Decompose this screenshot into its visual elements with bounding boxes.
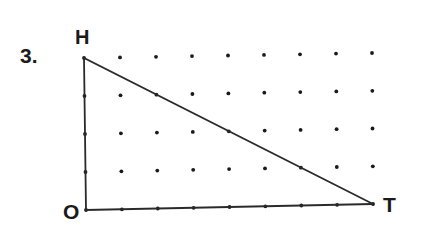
grid-dot	[120, 169, 124, 173]
grid-dot	[371, 164, 375, 168]
grid-dot	[335, 127, 339, 131]
grid-dot	[155, 169, 159, 173]
grid-dot	[370, 51, 374, 55]
grid-dot	[191, 168, 195, 172]
grid-dot	[262, 53, 266, 57]
grid-dot	[370, 89, 374, 93]
grid-dot	[262, 91, 266, 95]
grid-dot	[155, 131, 159, 135]
grid-dot	[227, 92, 231, 96]
grid-dot	[226, 54, 230, 58]
grid-dot	[119, 93, 123, 97]
dot-grid-triangle-diagram	[0, 0, 421, 238]
grid-dot	[263, 167, 267, 171]
grid-dot	[119, 131, 123, 135]
grid-dot	[118, 56, 122, 60]
grid-dot	[298, 52, 302, 56]
grid-dot	[190, 54, 194, 58]
grid-dot	[335, 165, 339, 169]
grid-dot	[371, 127, 375, 131]
grid-dot	[191, 92, 195, 96]
grid-dot	[154, 55, 158, 59]
triangle-hot	[84, 58, 373, 210]
grid-dot	[191, 130, 195, 134]
grid-dot	[227, 167, 231, 171]
grid-dot	[334, 90, 338, 94]
grid-dot	[263, 129, 267, 133]
grid-dot	[334, 52, 338, 56]
grid-dot	[298, 90, 302, 94]
grid-dot	[299, 128, 303, 132]
